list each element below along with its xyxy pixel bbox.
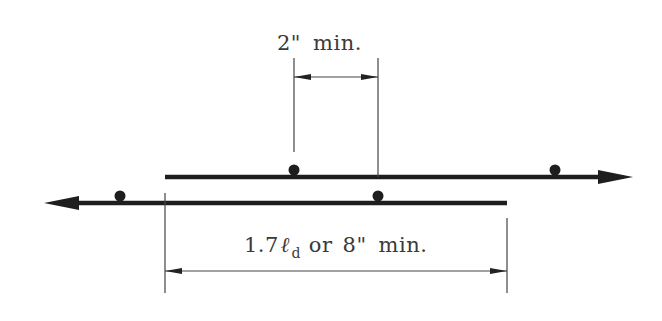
bottom-dimension-label: 1.7ℓdor8"min. xyxy=(244,232,427,258)
bar-dot xyxy=(373,191,384,202)
lower-bar xyxy=(44,191,507,211)
left-arrowhead-icon xyxy=(165,268,182,274)
bottom-dimension-suffix: min. xyxy=(379,233,428,257)
bar-dot xyxy=(289,165,300,176)
top-dimension-value: 2" xyxy=(277,31,301,55)
development-length-subscript: d xyxy=(291,245,300,261)
left-arrowhead-icon xyxy=(294,74,311,80)
upper-bar xyxy=(165,165,633,185)
bottom-dimension-connector: or xyxy=(309,233,333,257)
bottom-dimension-prefix: 1.7 xyxy=(244,233,279,257)
top-dimension xyxy=(294,58,378,177)
right-arrowhead-icon xyxy=(361,74,378,80)
right-arrowhead-icon xyxy=(490,268,507,274)
top-dimension-label: 2"min. xyxy=(277,31,362,55)
bar-dot xyxy=(115,191,126,202)
right-arrowhead-icon xyxy=(598,170,633,184)
top-dimension-suffix: min. xyxy=(313,31,362,55)
development-length-symbol: ℓ xyxy=(281,232,290,257)
bottom-dimension-value: 8" xyxy=(343,233,367,257)
bar-dot xyxy=(550,165,561,176)
left-arrowhead-icon xyxy=(44,196,79,210)
